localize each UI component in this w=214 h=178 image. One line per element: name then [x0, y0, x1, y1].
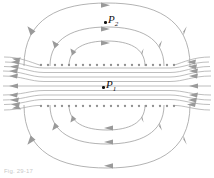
- interior-line-1: [5, 62, 209, 68]
- lower-conductor-row: [40, 105, 175, 107]
- arrow-lower-middle-right: [159, 123, 162, 131]
- point-label-p2: P2: [108, 14, 118, 28]
- lower-field-arcs: [24, 105, 190, 168]
- point-marker-p1: [102, 86, 105, 89]
- interior-line-7: [4, 100, 210, 105]
- arrow-upper-middle-right: [159, 41, 162, 49]
- arrow-upper-outer-right: [184, 26, 187, 35]
- interior-line-3: [3, 71, 211, 77]
- magnetic-field-figure: .fl { fill: none; stroke: #9a9a9a; strok…: [0, 0, 214, 178]
- flare-line-lower-left: [4, 105, 41, 110]
- point-label-p1-text: P: [106, 78, 113, 90]
- interior-arrows-left: [9, 58, 21, 110]
- point-label-p2-subscript: 2: [115, 20, 119, 28]
- point-label-p1-subscript: 1: [113, 85, 117, 93]
- arrow-lower-middle-left: [52, 123, 59, 131]
- arrow-lower-outer-left: [27, 136, 35, 145]
- point-marker-p2: [104, 21, 107, 24]
- upper-arc-middle: [50, 27, 164, 66]
- upper-field-arcs: [24, 3, 190, 66]
- lower-arc-outer: [24, 105, 190, 168]
- point-label-p1: P1: [106, 79, 116, 93]
- arrow-lower-outer-right: [184, 136, 187, 145]
- arrow-upper-inner-right: [142, 49, 144, 56]
- lower-arc-inner: [69, 105, 145, 130]
- upper-arc-outer: [24, 3, 190, 66]
- arrow-upper-outer-left: [27, 26, 35, 35]
- arrow-lower-inner-right: [142, 116, 144, 123]
- upper-arc-inner: [69, 41, 145, 66]
- point-label-p2-text: P: [108, 13, 115, 25]
- interior-arrows-right: [187, 60, 198, 107]
- figure-caption: Fig. 29-17: [4, 168, 33, 174]
- upper-conductor-row: [40, 64, 175, 66]
- lower-arc-middle: [50, 105, 164, 144]
- flare-line-lower-right: [173, 105, 210, 110]
- arrow-upper-middle-left: [52, 41, 59, 49]
